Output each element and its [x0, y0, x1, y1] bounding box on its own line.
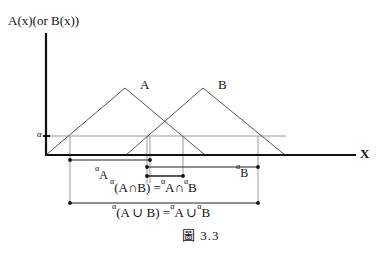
formula-intersection-sup-3: α [184, 177, 188, 186]
formula-union-sup-1: α [112, 202, 116, 211]
formula-intersection-part-3: B [188, 180, 197, 195]
formula-intersection-part-2: A∩ [165, 180, 184, 195]
measure-bar-alpha-a [68, 158, 152, 162]
formula-intersection-part-1: (A∩B) = [114, 180, 161, 195]
formula-union-part-3: B [201, 205, 210, 220]
interval-label-alpha-a: αA [95, 168, 108, 181]
formula-union: α(A ∪ B) =αA ∪αB [112, 206, 210, 219]
figure-caption: 圖 3.3 [182, 229, 220, 242]
curve-label-b: B [218, 78, 227, 91]
measure-bar-alpha-intersection [145, 174, 185, 178]
interval-label-alpha-b-base: B [240, 166, 248, 180]
alpha-axis-tick-label: α [37, 130, 42, 139]
formula-intersection: α(A∩B) =αA∩αB [110, 181, 197, 194]
alpha-superscript-a: α [95, 164, 99, 173]
formula-union-sup-3: α [197, 202, 201, 211]
interval-label-alpha-a-base: A [99, 168, 108, 182]
formula-union-sup-2: α [170, 202, 174, 211]
y-axis-label: A(x)(or B(x)) [8, 14, 79, 27]
measure-bar-alpha-union [68, 201, 260, 205]
interval-label-alpha-b: αB [236, 166, 248, 179]
curve-label-a: A [140, 78, 149, 91]
x-axis-label: X [360, 147, 369, 160]
formula-union-part-2: A ∪ [174, 205, 197, 220]
formula-intersection-sup-1: α [110, 177, 114, 186]
figure-alpha-cut-diagram [0, 0, 390, 260]
formula-intersection-sup-2: α [161, 177, 165, 186]
alpha-superscript-b: α [236, 162, 240, 171]
formula-union-part-1: (A ∪ B) = [116, 205, 170, 220]
